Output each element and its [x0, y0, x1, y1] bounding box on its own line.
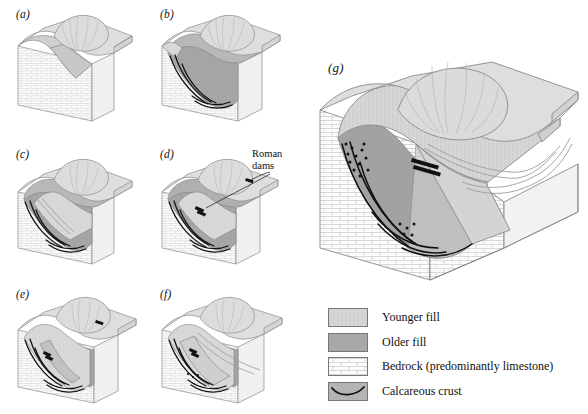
panel-e-label: (e) [16, 288, 29, 300]
panel-f-label: (f) [160, 288, 171, 300]
legend-label-bedrock: Bedrock (predominantly limestone) [382, 359, 553, 374]
legend-label-older-fill: Older fill [382, 335, 426, 350]
panel-c-label: (c) [16, 148, 29, 160]
panel-a-diagram [14, 8, 146, 128]
panel-g: (g) [312, 52, 588, 302]
legend-swatch-older-fill [328, 333, 368, 352]
roman-dams-annotation: Roman dams [252, 148, 304, 172]
legend-item-calcareous-crust: Calcareous crust [328, 380, 586, 403]
legend-item-bedrock: Bedrock (predominantly limestone) [328, 355, 586, 378]
panel-a: (a) [14, 8, 146, 128]
panel-d: (d) Roman dams [158, 148, 308, 270]
legend-item-older-fill: Older fill [328, 331, 586, 354]
legend-item-younger-fill: Younger fill [328, 306, 586, 329]
panel-b: (b) [158, 8, 296, 128]
panel-f-diagram [158, 288, 308, 410]
panel-d-label: (d) [160, 148, 174, 160]
panel-e: (e) [14, 288, 154, 410]
panel-g-label: (g) [328, 60, 344, 76]
roman-dams-line2: dams [252, 160, 304, 172]
legend-swatch-younger-fill [328, 308, 368, 327]
legend: Younger fill Older fill Bedrock (predomi… [328, 306, 586, 404]
legend-label-younger-fill: Younger fill [382, 310, 440, 325]
panel-e-diagram [14, 288, 154, 410]
legend-swatch-calcareous-crust [328, 382, 368, 401]
legend-swatch-bedrock [328, 357, 368, 376]
panel-g-diagram [312, 52, 588, 302]
panel-b-label: (b) [160, 8, 174, 20]
panel-f: (f) [158, 288, 308, 410]
panel-c: (c) [14, 148, 146, 270]
panel-b-diagram [158, 8, 296, 128]
panel-a-label: (a) [16, 8, 30, 20]
roman-dams-line1: Roman [252, 148, 304, 160]
legend-label-calcareous-crust: Calcareous crust [382, 384, 462, 399]
panel-c-diagram [14, 148, 146, 270]
figure-canvas: (a) [0, 0, 588, 414]
